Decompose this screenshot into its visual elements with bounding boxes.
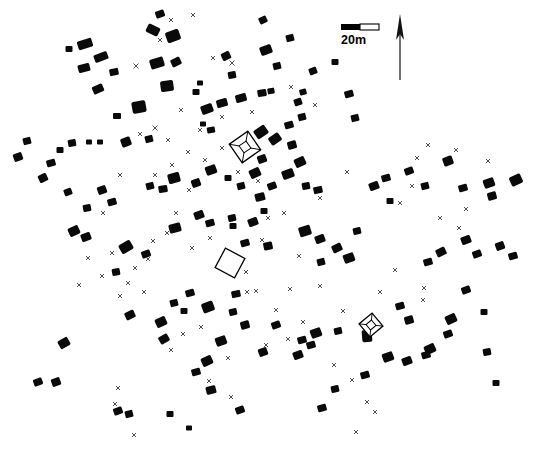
cairn-marker [261,208,268,214]
cairn-marker [113,113,121,119]
cairn-marker [225,175,232,181]
cairn-marker [160,80,174,93]
cairn-marker [230,223,237,229]
tomb-passage-line [359,324,366,325]
cairn-marker [227,71,236,79]
cairn-marker [197,81,203,86]
cairn-marker [67,139,76,147]
cairn-marker [131,100,147,114]
cairn-marker [86,140,92,145]
cairn-marker [111,268,120,276]
cairn-marker [200,122,206,127]
cairn-marker [481,309,488,315]
cairn-marker [167,411,174,417]
cairn-marker [301,182,310,190]
cairn-marker [482,348,491,356]
cairn-marker [387,198,394,204]
scale-bar-open-segment [360,24,379,30]
site-plan-map: 20m [0,0,539,455]
cairn-marker [267,87,275,94]
cairn-marker [186,426,192,431]
site-plan-canvas: 20m [0,0,539,455]
cairn-marker [193,89,200,95]
cairn-marker [181,308,188,314]
cairn-marker [57,147,64,153]
cairn-marker [332,59,339,65]
cairn-marker [66,46,73,52]
tomb-passage-line [371,313,372,320]
tomb-passage-line [376,325,383,326]
tomb-passage-line [370,330,371,337]
cairn-marker [82,204,91,212]
scale-bar-filled-segment [341,24,360,30]
cairn-marker [97,140,103,145]
scale-bar-label: 20m [341,33,366,47]
cairn-marker [493,380,500,386]
